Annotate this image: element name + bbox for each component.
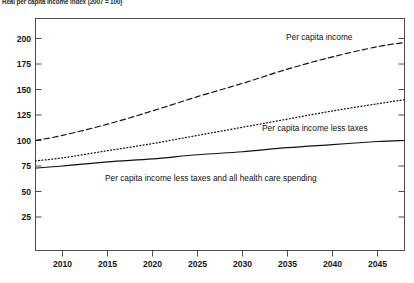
y-tick-label-125: 125	[17, 110, 32, 120]
y-tick-label-200: 200	[17, 34, 32, 44]
annotation-per-capita-income: Per capita income	[286, 32, 353, 42]
y-tick-label-175: 175	[17, 59, 32, 69]
x-axis-labels: 2010 2015 2020 2025 2030 2035 2040 2045	[53, 259, 387, 269]
y-tick-label-150: 150	[17, 85, 32, 95]
x-tick-label-2020: 2020	[143, 259, 162, 269]
y-tick-label-25: 25	[21, 212, 31, 222]
chart-plot-area: 200 175 150 125 100 75 50 25 2010 2015 2…	[0, 0, 414, 283]
x-tick-label-2015: 2015	[98, 259, 117, 269]
annotation-per-capita-income-less-taxes: Per capita income less taxes	[262, 123, 368, 133]
x-tick-label-2045: 2045	[368, 259, 387, 269]
chart-container: Real per capita income index (2007 = 100…	[0, 0, 414, 283]
x-tick-label-2010: 2010	[53, 259, 72, 269]
x-tick-label-2025: 2025	[188, 259, 207, 269]
annotation-per-capita-income-less-taxes-health: Per capita income less taxes and all hea…	[105, 173, 317, 183]
series-line-per-capita-income-less-taxes-health	[36, 141, 405, 169]
x-tick-label-2040: 2040	[323, 259, 342, 269]
x-tick-label-2030: 2030	[233, 259, 252, 269]
y-tick-label-50: 50	[21, 187, 31, 197]
y-tick-label-75: 75	[21, 161, 31, 171]
x-axis-ticks	[63, 251, 378, 257]
y-tick-label-100: 100	[17, 136, 32, 146]
y-axis-labels: 200 175 150 125 100 75 50 25	[17, 34, 32, 223]
x-tick-label-2035: 2035	[278, 259, 297, 269]
